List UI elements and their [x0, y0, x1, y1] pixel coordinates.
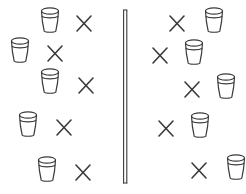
vertical-bar-icon [122, 9, 129, 184]
cup-icon [186, 111, 214, 141]
cup-icon [222, 153, 246, 183]
cup-icon [200, 6, 228, 36]
diagram-canvas [0, 0, 246, 194]
x-mark-icon [146, 40, 174, 70]
cup-icon [33, 155, 61, 185]
cup-icon [6, 36, 34, 66]
x-mark-icon [185, 155, 213, 185]
cup-icon [36, 6, 64, 36]
x-mark-icon [178, 74, 206, 104]
cup-icon [14, 110, 42, 140]
x-mark-icon [70, 8, 98, 38]
x-mark-icon [163, 8, 191, 38]
x-mark-icon [152, 113, 180, 143]
cup-icon [212, 72, 240, 102]
cup-icon [36, 67, 64, 97]
x-mark-icon [72, 70, 100, 100]
cup-icon [180, 38, 208, 68]
x-mark-icon [69, 157, 97, 187]
x-mark-icon [50, 112, 78, 142]
x-mark-icon [41, 38, 69, 68]
